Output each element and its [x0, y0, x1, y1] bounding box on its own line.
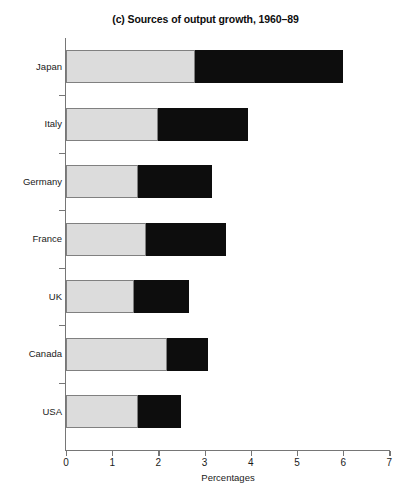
x-axis-tick — [297, 451, 298, 456]
y-axis-tick — [59, 153, 65, 154]
bar-segment-uk-segment-2 — [134, 280, 189, 313]
category-label-canada: Canada — [0, 349, 62, 359]
x-axis-tick-label: 0 — [51, 457, 81, 468]
x-axis-tick-label: 4 — [236, 457, 266, 468]
category-label-usa: USA — [0, 407, 62, 417]
bar-segment-germany-segment-1 — [66, 165, 138, 198]
x-axis-tick-label: 1 — [97, 457, 127, 468]
category-label-germany: Germany — [0, 177, 62, 187]
x-axis-tick — [343, 451, 344, 456]
y-axis-tick — [59, 268, 65, 269]
x-axis-tick-label: 2 — [143, 457, 173, 468]
category-label-france: France — [0, 234, 62, 244]
bar-usa — [66, 395, 181, 428]
chart-title: (c) Sources of output growth, 1960–89 — [0, 13, 411, 25]
x-axis-tick — [112, 451, 113, 456]
bar-segment-france-segment-2 — [146, 223, 226, 256]
bar-segment-usa-segment-1 — [66, 395, 138, 428]
bar-segment-canada-segment-2 — [167, 338, 208, 371]
bar-segment-usa-segment-2 — [138, 395, 181, 428]
y-axis-tick — [59, 383, 65, 384]
bar-france — [66, 223, 226, 256]
y-axis-tick — [59, 210, 65, 211]
bar-segment-uk-segment-1 — [66, 280, 134, 313]
y-axis-tick — [59, 95, 65, 96]
bar-segment-italy-segment-2 — [158, 108, 248, 141]
x-axis-tick — [389, 451, 390, 456]
category-label-uk: UK — [0, 292, 62, 302]
bar-segment-italy-segment-1 — [66, 108, 158, 141]
bar-germany — [66, 165, 212, 198]
bar-canada — [66, 338, 208, 371]
bar-italy — [66, 108, 248, 141]
x-axis-tick — [66, 451, 67, 456]
x-axis-title: Percentages — [66, 472, 390, 483]
x-axis-tick-label: 7 — [374, 457, 404, 468]
x-axis-tick — [251, 451, 252, 456]
bar-japan — [66, 50, 343, 83]
chart-figure: (c) Sources of output growth, 1960–89 Ja… — [0, 0, 411, 496]
bar-segment-canada-segment-1 — [66, 338, 167, 371]
bar-segment-france-segment-1 — [66, 223, 146, 256]
x-axis-line — [65, 450, 390, 451]
bar-uk — [66, 280, 189, 313]
y-axis-tick — [59, 325, 65, 326]
category-label-italy: Italy — [0, 119, 62, 129]
x-axis-tick — [205, 451, 206, 456]
bar-segment-germany-segment-2 — [138, 165, 212, 198]
x-axis-tick-label: 3 — [190, 457, 220, 468]
x-axis-tick-label: 6 — [328, 457, 358, 468]
x-axis-tick — [158, 451, 159, 456]
bar-segment-japan-segment-1 — [66, 50, 195, 83]
category-label-japan: Japan — [0, 62, 62, 72]
bar-segment-japan-segment-2 — [195, 50, 343, 83]
x-axis-tick-label: 5 — [282, 457, 312, 468]
